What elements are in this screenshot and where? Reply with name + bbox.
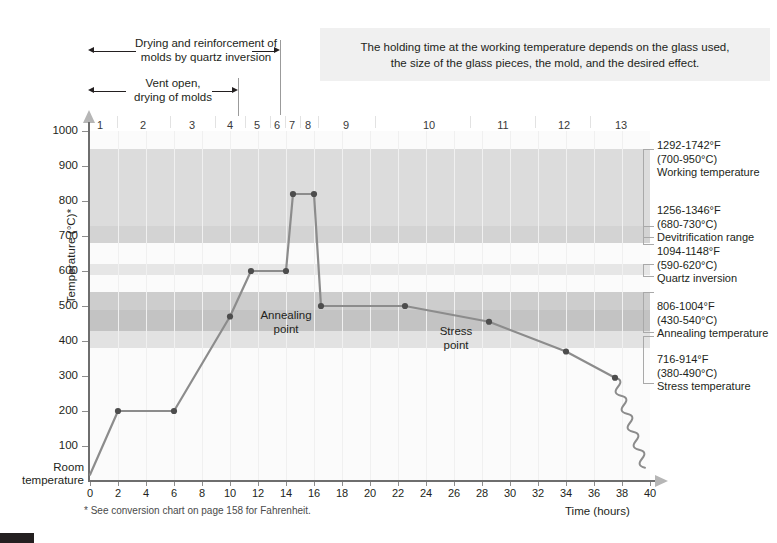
stress-point-line1: Stress: [425, 324, 487, 338]
data-point: [402, 303, 408, 309]
legend-fahrenheit: 1256-1346°F: [657, 204, 777, 218]
legend-name: Working temperature: [657, 166, 777, 180]
legend-item-quartz-inversion: 1094-1148°F (590-620°C) Quartz inversion: [657, 245, 777, 286]
legend-celsius: (590-620°C): [657, 259, 777, 273]
legend-item-stress-temperature: 716-914°F (380-490°C) Stress temperature: [657, 353, 777, 394]
legend-bracket-devitrification: [643, 226, 654, 246]
legend-bracket-annealing: [643, 292, 654, 333]
data-point: [227, 313, 233, 319]
data-point: [311, 191, 317, 197]
annealing-point-line1: Annealing: [248, 308, 324, 322]
data-point: [171, 408, 177, 414]
data-point: [612, 375, 618, 381]
legend-item-working-temperature: 1292-1742°F (700-950°C) Working temperat…: [657, 139, 777, 180]
data-point: [563, 348, 569, 354]
legend-celsius: (680-730°C): [657, 218, 777, 232]
legend-celsius: (430-540°C): [657, 314, 777, 328]
legend-fahrenheit: 1292-1742°F: [657, 139, 777, 153]
legend-name: Devitrification range: [657, 231, 777, 245]
temperature-curve-line: [90, 194, 615, 475]
legend-fahrenheit: 806-1004°F: [657, 300, 777, 314]
temperature-curve-wavy-tail: [615, 378, 645, 468]
annealing-point-line2: point: [248, 322, 324, 336]
legend-name: Annealing temperature: [657, 327, 777, 341]
legend-fahrenheit: 1094-1148°F: [657, 245, 777, 259]
footnote: * See conversion chart on page 158 for F…: [84, 505, 311, 516]
legend-name: Stress temperature: [657, 380, 777, 394]
stress-point-label: Stress point: [425, 324, 487, 352]
chart-figure: 1000 900 800 700 600 500 400 300 200 100…: [0, 0, 777, 543]
legend-bracket-quartz-inversion: [643, 264, 654, 277]
legend-bracket-stress: [643, 336, 654, 384]
legend-celsius: (380-490°C): [657, 367, 777, 381]
stress-point-line2: point: [425, 338, 487, 352]
legend-name: Quartz inversion: [657, 272, 777, 286]
legend-fahrenheit: 716-914°F: [657, 353, 777, 367]
data-point: [115, 408, 121, 414]
data-point: [248, 268, 254, 274]
legend-item-devitrification-range: 1256-1346°F (680-730°C) Devitrification …: [657, 204, 777, 245]
data-point: [283, 268, 289, 274]
legend-item-annealing-temperature: 806-1004°F (430-540°C) Annealing tempera…: [657, 300, 777, 341]
annealing-point-label: Annealing point: [248, 308, 324, 336]
legend-celsius: (700-950°C): [657, 153, 777, 167]
page-tab-marker: [0, 533, 34, 543]
data-point: [290, 191, 296, 197]
